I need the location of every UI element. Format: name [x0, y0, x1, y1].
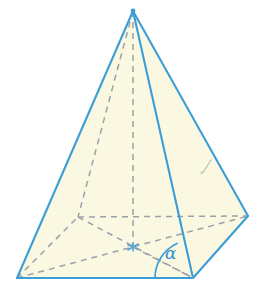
pyramid-figure: α [0, 0, 268, 292]
pyramid-drawing [0, 0, 268, 292]
angle-label-alpha: α [165, 245, 176, 262]
apex-vertex-dot [131, 9, 136, 14]
